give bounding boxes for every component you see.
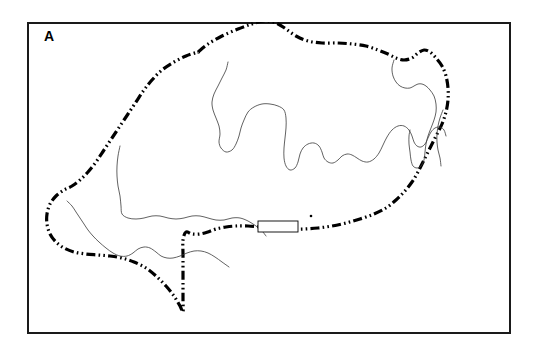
interior-contour-southwest: [117, 146, 266, 236]
map-layer-group: [47, 22, 449, 312]
island-map-graphic: [27, 22, 511, 334]
figure-panel: A: [0, 0, 538, 349]
interior-contour-northeast-tail: [437, 110, 443, 166]
island-boundary: [47, 22, 449, 312]
rectangle-marker: [258, 221, 298, 232]
panel-label-a: A: [44, 29, 55, 43]
interior-contour-north: [212, 62, 446, 170]
map-marker-group: [258, 215, 312, 232]
interior-contour-northeast-inlet: [392, 60, 436, 168]
point-marker: [310, 215, 313, 218]
